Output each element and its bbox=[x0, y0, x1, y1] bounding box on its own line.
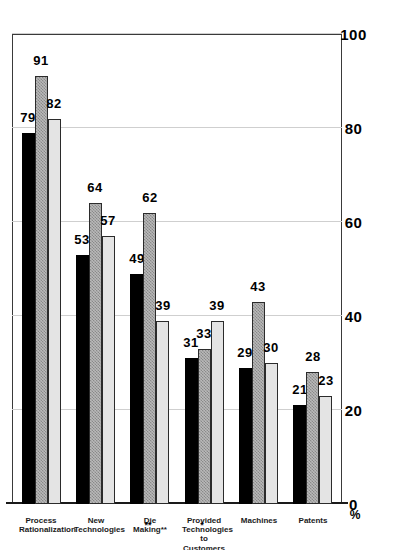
bar-automotive[interactable]: 33 bbox=[198, 349, 211, 504]
bar-row: 43 bbox=[252, 34, 265, 504]
bar-value-label: 53 bbox=[75, 233, 90, 246]
bar-group: 212823 bbox=[290, 34, 336, 504]
axis-tick-label: 40 bbox=[345, 309, 363, 324]
bar-row: 28 bbox=[306, 34, 319, 504]
bar-electronics[interactable]: 39 bbox=[211, 321, 224, 504]
bar-value-label: 39 bbox=[209, 298, 224, 311]
bar-row: 21 bbox=[293, 34, 306, 504]
bar-row: 23 bbox=[319, 34, 332, 504]
bar-manufacturing[interactable]: 79 bbox=[22, 133, 35, 504]
axis-tick-label: 80 bbox=[345, 121, 363, 136]
bar-value-label: 30 bbox=[264, 341, 279, 354]
bar-value-label: 43 bbox=[251, 280, 266, 293]
bar-value-label: 82 bbox=[46, 96, 61, 109]
bar-row: 39 bbox=[156, 34, 169, 504]
bar-value-label: 91 bbox=[33, 54, 48, 67]
bar-row: 29 bbox=[239, 34, 252, 504]
chart-plot-area: 799182536457496239313339294330212823 bbox=[12, 34, 342, 504]
bar-manufacturing[interactable]: 29 bbox=[239, 368, 252, 504]
bar-groups: 799182536457496239313339294330212823 bbox=[12, 34, 342, 504]
bar-row: 39 bbox=[211, 34, 224, 504]
bar-automotive[interactable]: 43 bbox=[252, 302, 265, 504]
bar-value-label: 57 bbox=[101, 214, 116, 227]
axis-tick-label: 20 bbox=[345, 403, 363, 418]
bar-value-label: 39 bbox=[155, 298, 170, 311]
bar-value-label: 29 bbox=[238, 345, 253, 358]
bar-value-label: 62 bbox=[142, 190, 157, 203]
bar-row: 62 bbox=[143, 34, 156, 504]
bar-value-label: 79 bbox=[20, 110, 35, 123]
bar-automotive[interactable]: 91 bbox=[35, 76, 48, 504]
bar-value-label: 64 bbox=[88, 181, 103, 194]
bar-row: 64 bbox=[89, 34, 102, 504]
bar-electronics[interactable]: 23 bbox=[319, 396, 332, 504]
rotated-chart-stage: Manufacturing* Automotive Electronics 79… bbox=[0, 0, 398, 550]
footnote-mark: ** bbox=[135, 520, 161, 530]
axis-tick-label: 100 bbox=[340, 27, 367, 42]
footnote-mark: * bbox=[189, 520, 215, 530]
bar-row: 82 bbox=[48, 34, 61, 504]
axis-tick-label: 0 bbox=[349, 497, 358, 512]
footnote-markers: *** bbox=[12, 512, 342, 538]
bar-value-label: 33 bbox=[196, 327, 211, 340]
bar-value-label: 28 bbox=[305, 350, 320, 363]
bar-row: 31 bbox=[185, 34, 198, 504]
bar-manufacturing[interactable]: 21 bbox=[293, 405, 306, 504]
bar-group: 799182 bbox=[18, 34, 64, 504]
bar-group: 313339 bbox=[181, 34, 227, 504]
value-axis-ticks: 020406080100 bbox=[342, 34, 382, 504]
bar-manufacturing[interactable]: 53 bbox=[76, 255, 89, 504]
bar-group: 496239 bbox=[127, 34, 173, 504]
bar-group: 536457 bbox=[72, 34, 118, 504]
bar-electronics[interactable]: 30 bbox=[265, 363, 278, 504]
bar-row: 30 bbox=[265, 34, 278, 504]
bar-row: 33 bbox=[198, 34, 211, 504]
bar-automotive[interactable]: 62 bbox=[143, 213, 156, 504]
bar-manufacturing[interactable]: 49 bbox=[130, 274, 143, 504]
bar-electronics[interactable]: 57 bbox=[102, 236, 115, 504]
bar-group: 294330 bbox=[235, 34, 281, 504]
bar-row: 79 bbox=[22, 34, 35, 504]
bar-value-label: 49 bbox=[129, 251, 144, 264]
bar-row: 57 bbox=[102, 34, 115, 504]
bar-automotive[interactable]: 28 bbox=[306, 372, 319, 504]
bar-manufacturing[interactable]: 31 bbox=[185, 358, 198, 504]
bar-automotive[interactable]: 64 bbox=[89, 203, 102, 504]
bar-row: 53 bbox=[76, 34, 89, 504]
bar-value-label: 21 bbox=[292, 383, 307, 396]
bar-value-label: 23 bbox=[318, 374, 333, 387]
axis-tick-label: 60 bbox=[345, 215, 363, 230]
bar-electronics[interactable]: 82 bbox=[48, 119, 61, 504]
bar-electronics[interactable]: 39 bbox=[156, 321, 169, 504]
bar-row: 49 bbox=[130, 34, 143, 504]
